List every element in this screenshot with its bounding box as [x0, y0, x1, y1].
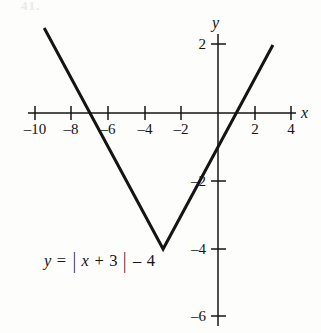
abs-bar-close: |: [122, 247, 128, 276]
x-tick-label-4: 4: [287, 122, 295, 137]
y-tick-label--2: –2: [184, 174, 206, 189]
equation-equals: =: [56, 251, 68, 270]
x-tick-label--8: –8: [64, 122, 79, 137]
equation-trailing-op: –: [132, 251, 142, 270]
equation-inside-var: x: [82, 251, 90, 270]
x-tick-label--6: –6: [101, 122, 116, 137]
equation-trailing-num: 4: [147, 251, 155, 270]
equation-lhs: y: [44, 251, 52, 270]
abs-bar-open: |: [72, 247, 78, 276]
equation-annotation: y = | x + 3 | – 4: [44, 251, 155, 271]
y-axis-label: y: [212, 15, 219, 31]
x-tick-label--10: –10: [24, 122, 47, 137]
y-tick-label--6: –6: [184, 309, 206, 324]
y-tick-label-2: 2: [184, 37, 206, 52]
equation-inside-op: +: [93, 251, 105, 270]
graph-figure: 41. –10 –8 –6 –4 –2 2 4 2 –: [0, 0, 321, 333]
y-tick-label--4: –4: [184, 242, 206, 257]
plot-canvas: [0, 0, 321, 333]
x-tick-label--4: –4: [138, 122, 153, 137]
function-curve: [44, 28, 273, 249]
x-tick-label--2: –2: [174, 122, 189, 137]
x-axis-label: x: [301, 105, 308, 121]
equation-inside-num: 3: [109, 251, 117, 270]
x-tick-label-2: 2: [251, 122, 259, 137]
